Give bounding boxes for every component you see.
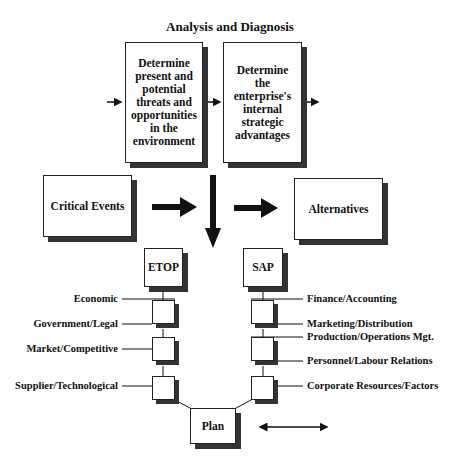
- sap-label: SAP: [252, 261, 274, 274]
- sap-factor-box-1: [251, 300, 274, 324]
- plan-label: Plan: [202, 420, 224, 433]
- critical-events-arrow: [152, 197, 197, 217]
- sap-factor-box-2: [251, 337, 274, 361]
- sap-factor-marketing-distribution: Marketing/Distribution: [307, 318, 413, 330]
- etop-factor-box-1: [152, 300, 175, 324]
- down-arrow: [205, 175, 221, 248]
- sap-factor-finance-accounting: Finance/Accounting: [307, 293, 397, 305]
- sap-factor-box-3: [251, 376, 274, 400]
- etop-factor-market-competitive: Market/Competitive: [26, 343, 118, 355]
- sap-factor-corporate-resources: Corporate Resources/Factors: [307, 380, 438, 392]
- sap-factor-production-operations: Production/Operations Mgt.: [307, 331, 434, 343]
- sap-box: SAP: [243, 248, 283, 287]
- etop-factor-economic: Economic: [74, 293, 118, 305]
- alternatives-box: Alternatives: [294, 178, 383, 240]
- etop-factor-box-2: [152, 337, 175, 361]
- alternatives-arrow: [234, 198, 278, 218]
- etop-label: ETOP: [148, 261, 179, 274]
- plan-box: Plan: [190, 408, 236, 444]
- etop-factor-box-3: [152, 376, 175, 400]
- critical-events-text: Critical Events: [51, 200, 125, 213]
- alternatives-text: Alternatives: [308, 203, 368, 216]
- etop-box: ETOP: [144, 248, 183, 287]
- etop-factor-government-legal: Government/Legal: [33, 318, 118, 330]
- environment-analysis-text: Determine present and potential threats …: [126, 57, 202, 148]
- etop-factor-supplier-technological: Supplier/Technological: [15, 380, 118, 392]
- critical-events-box: Critical Events: [43, 175, 132, 237]
- internal-analysis-box: Determine the enterprise's internal stra…: [223, 42, 302, 163]
- internal-analysis-text: Determine the enterprise's internal stra…: [228, 64, 297, 142]
- sap-factor-personnel-labour: Personnel/Labour Relations: [307, 355, 433, 367]
- environment-analysis-box: Determine present and potential threats …: [125, 42, 203, 163]
